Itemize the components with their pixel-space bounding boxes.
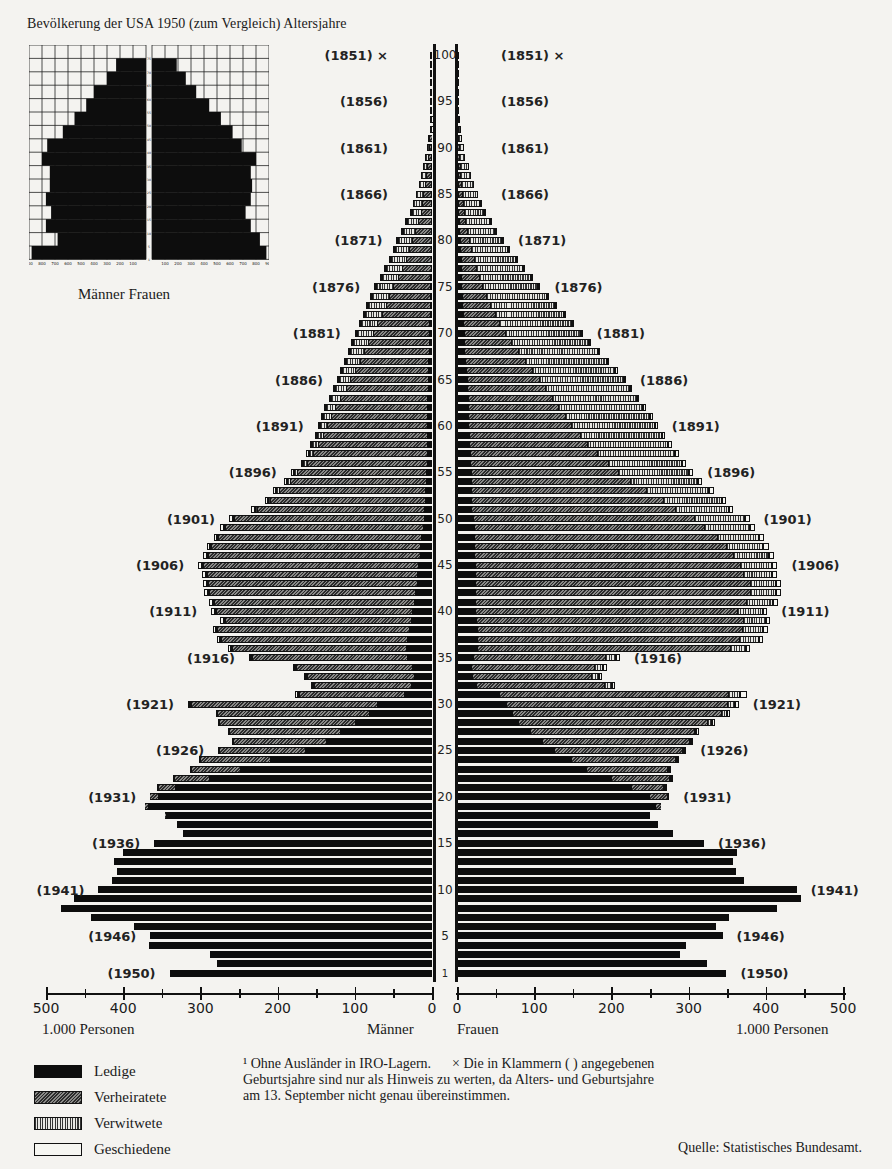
verheiratete-segment xyxy=(519,719,707,726)
svg-text:75: 75 xyxy=(147,57,151,61)
verheiratete-segment xyxy=(464,311,495,318)
verwitwete-segment xyxy=(419,181,426,188)
verwitwete-segment xyxy=(518,348,598,355)
verwitwete-segment xyxy=(558,404,643,411)
women-axis-tick-label: 400 xyxy=(752,1000,779,1016)
men-bar-age-68 xyxy=(348,348,432,355)
ledige-segment xyxy=(326,738,432,745)
verwitwete-segment xyxy=(339,376,351,383)
verheiratete-segment xyxy=(394,283,429,290)
verheiratete-segment xyxy=(465,330,506,337)
men-bar-age-21 xyxy=(157,784,432,791)
women-bar-age-28 xyxy=(457,719,715,726)
geschiedene-segment xyxy=(581,330,583,337)
verheiratete-segment xyxy=(461,246,471,253)
usa-inset-pyramid: 9008007006005004003002001001002003004005… xyxy=(29,45,269,271)
ledige-segment xyxy=(457,960,707,967)
inset-bars xyxy=(32,58,267,259)
verheiratete-segment xyxy=(462,274,479,281)
verheiratete-segment xyxy=(478,626,742,633)
men-bar-age-97 xyxy=(431,79,432,86)
geschiedene-segment xyxy=(508,246,510,253)
verheiratete-segment xyxy=(465,339,511,346)
age-tick-label: 75 xyxy=(430,280,460,294)
men-bar-age-50 xyxy=(229,515,432,522)
verheiratete-swatch xyxy=(34,1091,82,1104)
ledige-segment xyxy=(431,172,432,179)
ledige-segment xyxy=(457,728,531,735)
svg-text:10: 10 xyxy=(147,232,151,236)
verwitwete-segment xyxy=(368,302,386,309)
men-bar-age-77 xyxy=(384,265,432,272)
verwitwete-segment xyxy=(750,580,776,587)
verheiratete-segment xyxy=(374,330,429,337)
svg-text:300: 300 xyxy=(187,261,195,266)
verheiratete-segment xyxy=(472,469,619,476)
age-tick-label: 10 xyxy=(430,883,460,897)
men-bar-age-54 xyxy=(284,478,432,485)
men-birth-year-label: (1901) xyxy=(167,511,215,526)
verheiratete-segment xyxy=(476,562,740,569)
verheiratete-segment xyxy=(314,450,427,457)
legend-item-ledige: Ledige xyxy=(34,1058,171,1084)
women-axis-tick-label: 0 xyxy=(453,1000,462,1016)
ledige-segment xyxy=(457,534,475,541)
men-bar-age-42 xyxy=(204,589,432,596)
svg-text:300: 300 xyxy=(103,261,111,266)
verheiratete-segment xyxy=(324,432,427,439)
men-bar-age-23 xyxy=(190,766,432,773)
women-side-label: Frauen xyxy=(457,1021,499,1038)
geschiedene-segment xyxy=(729,506,734,513)
verheiratete-segment xyxy=(572,756,675,763)
women-birth-year-label: (1926) xyxy=(700,743,748,758)
geschiedene-segment xyxy=(655,422,658,429)
ledige-segment xyxy=(91,914,432,921)
verheiratete-segment xyxy=(472,487,646,494)
age-tick-label: 40 xyxy=(430,604,460,618)
geschiedene-segment xyxy=(555,302,557,309)
geschiedene-segment xyxy=(564,311,566,318)
age-tick-label: 30 xyxy=(430,697,460,711)
legend-item-verheiratete: Verheiratete xyxy=(34,1084,171,1110)
verheiratete-segment xyxy=(410,246,430,253)
verwitwete-segment xyxy=(740,562,772,569)
verwitwete-segment xyxy=(618,469,689,476)
women-bar-age-17 xyxy=(457,821,658,828)
verwitwete-segment xyxy=(743,571,772,578)
right-axis-tick xyxy=(650,989,652,998)
ledige-segment xyxy=(457,673,473,680)
men-birth-year-label: (1866) xyxy=(340,187,388,202)
women-bar-age-54 xyxy=(457,478,702,485)
verheiratete-segment xyxy=(477,682,604,689)
ledige-segment xyxy=(420,543,432,550)
geschiedene-segment xyxy=(516,256,518,263)
women-bar-age-8 xyxy=(457,905,777,912)
ledige-segment xyxy=(457,830,673,837)
men-bar-age-14 xyxy=(123,849,432,856)
men-birth-year-label: (1861) xyxy=(340,140,388,155)
verheiratete-segment xyxy=(531,728,694,735)
verheiratete-segment xyxy=(209,580,417,587)
ledige-segment xyxy=(457,497,472,504)
verheiratete-segment xyxy=(315,682,411,689)
ledige-segment xyxy=(457,923,716,930)
ledige-segment xyxy=(183,830,432,837)
men-bar-age-82 xyxy=(405,218,432,225)
geschiedene-segment xyxy=(759,636,764,643)
verheiratete-segment xyxy=(361,358,429,365)
verheiratete-segment xyxy=(226,524,423,531)
svg-text:30: 30 xyxy=(147,178,151,182)
verheiratete-segment xyxy=(258,506,424,513)
ledige-segment xyxy=(457,932,723,939)
ledige-segment xyxy=(61,905,432,912)
verheiratete-segment xyxy=(365,348,429,355)
left-axis-tick xyxy=(85,989,87,998)
men-bar-age-73 xyxy=(366,302,432,309)
women-unit-label: 1.000 Personen xyxy=(736,1021,829,1038)
geschiedene-segment xyxy=(502,237,504,244)
verwitwete-segment xyxy=(743,617,766,624)
svg-text:900: 900 xyxy=(29,261,33,266)
ledige-segment xyxy=(114,858,432,865)
women-bar-age-10 xyxy=(457,886,797,893)
ledige-segment xyxy=(414,673,432,680)
